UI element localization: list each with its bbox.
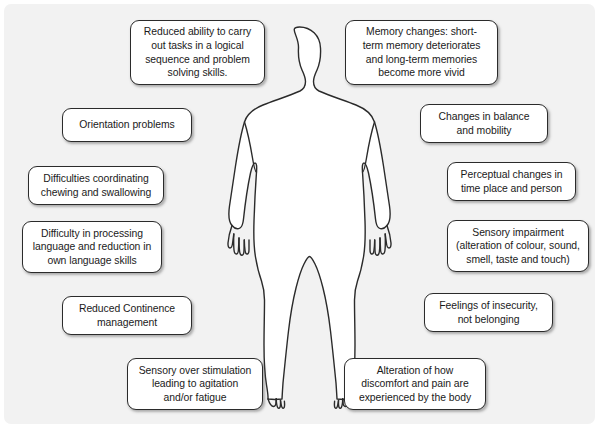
symptom-box-text: Orientation problems (69, 118, 185, 132)
symptom-box-text: Difficulties coordinating chewing and sw… (35, 172, 157, 199)
human-body-silhouette (0, 0, 599, 428)
symptom-box-text: Sensory impairment (alteration of colour… (454, 226, 582, 267)
symptom-box-sensory-impairment: Sensory impairment (alteration of colour… (447, 220, 589, 272)
symptom-box-changes-balance-mobility: Changes in balance and mobility (420, 104, 548, 143)
symptom-box-memory-changes: Memory changes: short- term memory deter… (345, 20, 498, 85)
symptom-box-orientation-problems: Orientation problems (62, 108, 192, 142)
symptom-box-text: Reduced ability to carry out tasks in a … (137, 25, 258, 79)
symptom-box-text: Memory changes: short- term memory deter… (352, 25, 491, 79)
symptom-box-text: Difficulty in processing language and re… (29, 227, 155, 268)
symptom-box-difficulties-chewing-swallowing: Difficulties coordinating chewing and sw… (28, 166, 164, 205)
symptom-box-text: Alteration of how discomfort and pain ar… (351, 364, 479, 405)
symptom-box-reduced-continence-management: Reduced Continence management (62, 296, 192, 335)
symptom-box-feelings-of-insecurity: Feelings of insecurity, not belonging (424, 293, 553, 332)
symptom-box-difficulty-processing-language: Difficulty in processing language and re… (22, 221, 162, 273)
symptom-box-perceptual-changes: Perceptual changes in time place and per… (447, 162, 576, 201)
symptom-box-reduced-ability-tasks: Reduced ability to carry out tasks in a … (130, 20, 265, 85)
symptom-box-text: Perceptual changes in time place and per… (454, 168, 569, 195)
symptom-box-text: Changes in balance and mobility (427, 110, 541, 137)
diagram-canvas: Reduced ability to carry out tasks in a … (0, 0, 599, 428)
symptom-box-alteration-discomfort-pain: Alteration of how discomfort and pain ar… (344, 358, 486, 410)
symptom-box-text: Feelings of insecurity, not belonging (431, 299, 546, 326)
symptom-box-sensory-over-stimulation: Sensory over stimulation leading to agit… (127, 358, 263, 410)
symptom-box-text: Sensory over stimulation leading to agit… (134, 364, 256, 405)
symptom-box-text: Reduced Continence management (69, 302, 185, 329)
